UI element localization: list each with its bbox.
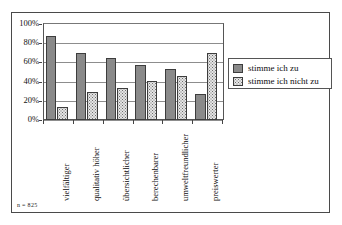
x-tick-mark — [43, 120, 44, 124]
bar — [117, 88, 128, 120]
x-tick-mark — [192, 120, 193, 124]
legend-swatch-disagree — [233, 77, 243, 86]
legend-swatch-agree — [233, 64, 243, 73]
bar — [106, 58, 117, 120]
x-axis-labels: vielfältigerqualitativ höherübersichtlic… — [43, 125, 224, 203]
y-tick-mark-0 — [39, 120, 42, 121]
y-axis: 100%80%60%40%20%0% — [12, 17, 42, 129]
sample-size-footnote: n = 825 — [17, 202, 37, 208]
y-tick-mark-20 — [39, 101, 42, 102]
bar — [165, 69, 176, 120]
bar — [46, 36, 57, 120]
legend-item-agree: stimme ich zu — [233, 62, 327, 74]
bar-group — [134, 24, 164, 120]
bar-group — [163, 24, 193, 120]
legend-item-disagree: stimme ich nicht zu — [233, 75, 327, 87]
bar-group — [44, 24, 74, 120]
y-tick-mark-80 — [39, 43, 42, 44]
y-tick-label-60: 60% — [23, 57, 39, 66]
x-tick-mark — [73, 120, 74, 124]
bar — [147, 81, 158, 120]
bar — [207, 53, 218, 120]
y-tick-mark-100 — [39, 24, 42, 25]
x-axis-label: übersichtlicher — [122, 150, 131, 201]
x-tick-mark — [222, 120, 223, 124]
bar-group — [193, 24, 223, 120]
y-tick-mark-60 — [39, 62, 42, 63]
x-tick-mark — [103, 120, 104, 124]
bar-group — [74, 24, 104, 120]
bar-series-container — [44, 24, 223, 120]
x-axis-label: qualitativ höher — [92, 147, 101, 201]
bar — [135, 65, 146, 120]
bar — [87, 92, 98, 120]
y-tick-label-20: 20% — [23, 96, 39, 105]
x-axis-label: umweltfreundlicher — [181, 134, 190, 201]
x-axis-label: vielfältiger — [62, 164, 71, 201]
y-tick-label-100: 100% — [19, 19, 39, 28]
bar — [76, 53, 87, 120]
y-tick-mark-40 — [39, 82, 42, 83]
bar-group — [104, 24, 134, 120]
chart-frame: 100%80%60%40%20%0% vielfältigerqualitati… — [11, 12, 330, 213]
y-tick-label-0: 0% — [28, 115, 39, 124]
x-tick-mark — [162, 120, 163, 124]
y-tick-label-80: 80% — [23, 38, 39, 47]
x-axis-label: berechenbarer — [151, 153, 160, 201]
legend-label-disagree: stimme ich nicht zu — [248, 76, 319, 86]
chart-legend: stimme ich zu stimme ich nicht zu — [228, 58, 332, 89]
y-tick-label-40: 40% — [23, 77, 39, 86]
bar — [195, 94, 206, 120]
bar — [57, 107, 68, 120]
x-tick-mark — [133, 120, 134, 124]
x-axis-label: preiswerter — [211, 163, 220, 201]
bar — [177, 76, 188, 120]
legend-label-agree: stimme ich zu — [248, 63, 299, 73]
